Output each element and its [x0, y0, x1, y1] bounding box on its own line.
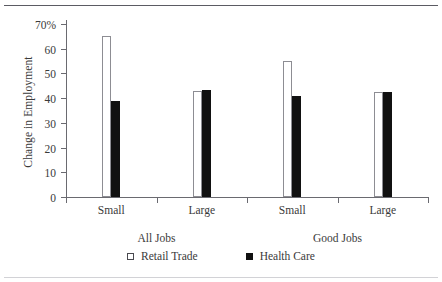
y-axis-line [66, 20, 67, 197]
y-axis-title: Change in Employment [22, 22, 34, 202]
bar-health-care [383, 92, 392, 197]
filled-square-icon [246, 253, 253, 260]
y-axis-tick-label: 40 [45, 93, 57, 105]
y-axis-tick-label: 10 [45, 167, 57, 179]
group-label: Good Jobs [313, 232, 362, 244]
bar-retail-trade [283, 61, 292, 197]
x-axis-label: Small [279, 204, 306, 216]
y-axis-tick: 20 [61, 148, 66, 149]
x-axis-tick [157, 197, 158, 203]
x-axis-tick [338, 197, 339, 203]
y-axis-tick: 70% [61, 24, 66, 25]
y-axis-tick-label: 60 [45, 44, 57, 56]
bar-health-care [202, 90, 211, 198]
bar-retail-trade [102, 36, 111, 197]
bar-chart-figure: Change in Employment 010203040506070% Sm… [0, 0, 442, 282]
bar-retail-trade [374, 92, 383, 197]
y-axis-tick: 40 [61, 98, 66, 99]
hollow-square-icon [127, 253, 134, 260]
legend-label: Retail Trade [141, 250, 198, 262]
x-axis-label: Large [188, 204, 215, 216]
plot-area: 010203040506070% SmallLargeSmallLarge Al… [66, 24, 428, 197]
y-axis-tick: 30 [61, 123, 66, 124]
y-axis-tick-label: 0 [50, 192, 56, 204]
x-axis-tick [66, 197, 67, 203]
x-axis-label: Small [98, 204, 125, 216]
y-axis-tick-label: 20 [45, 143, 57, 155]
chart-legend: Retail TradeHealth Care [0, 250, 442, 262]
bar-health-care [292, 96, 301, 197]
y-axis-tick-label: 70% [35, 19, 56, 31]
x-axis-tick [247, 197, 248, 203]
y-axis-tick-label: 30 [45, 118, 57, 130]
y-axis-tick: 50 [61, 73, 66, 74]
y-axis-tick: 60 [61, 49, 66, 50]
bar-health-care [111, 101, 120, 197]
legend-item: Health Care [246, 250, 315, 262]
legend-label: Health Care [260, 250, 315, 262]
bar-retail-trade [193, 91, 202, 197]
y-axis-tick-label: 50 [45, 68, 57, 80]
x-axis-label: Large [369, 204, 396, 216]
legend-item: Retail Trade [127, 250, 198, 262]
x-axis-tick [428, 197, 429, 203]
y-axis-tick: 10 [61, 172, 66, 173]
group-label: All Jobs [137, 232, 175, 244]
